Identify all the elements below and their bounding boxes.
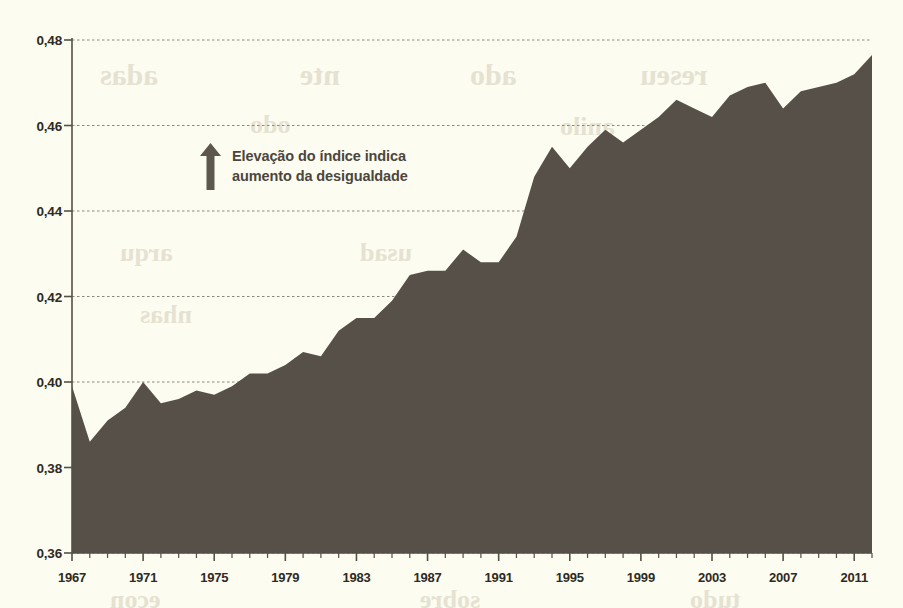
up-arrow-icon [200,143,221,190]
x-axis-labels: 1967197119751979198319871991199519992003… [0,0,903,608]
x-axis-tick-label: 1987 [413,570,441,585]
x-axis-tick-label: 1967 [58,570,86,585]
x-axis-tick-label: 2007 [769,570,797,585]
x-axis-tick-label: 1995 [556,570,584,585]
x-axis-tick-label: 1999 [627,570,655,585]
x-axis-tick-label: 1971 [129,570,157,585]
x-axis-tick-label: 2011 [841,570,868,585]
x-axis-tick-label: 1979 [271,570,299,585]
x-axis-tick-label: 1975 [200,570,228,585]
annotation-label: Elevação do índice indica aumento da des… [232,147,408,186]
gini-index-area-chart: 0,480,460,440,420,400,380,36 19671971197… [0,0,903,608]
x-axis-tick-label: 1991 [485,570,513,585]
x-axis-tick-label: 2003 [698,570,726,585]
chart-annotation: Elevação do índice indica aumento da des… [200,143,408,190]
x-axis-tick-label: 1983 [342,570,370,585]
